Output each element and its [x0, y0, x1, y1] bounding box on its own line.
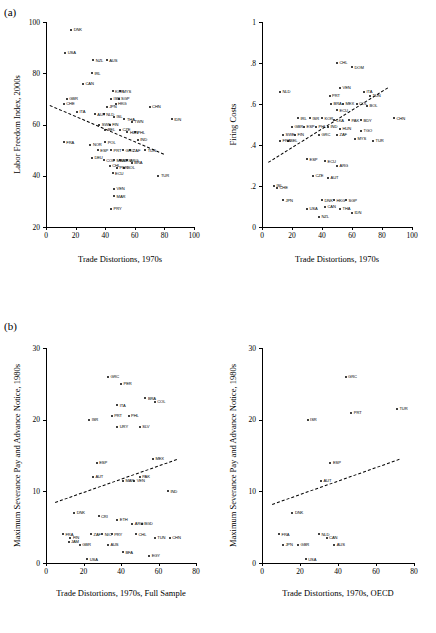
x-tick-label: 0 [37, 567, 55, 576]
x-tick-label: 100 [403, 231, 421, 240]
data-point [115, 103, 117, 105]
data-point [76, 111, 78, 113]
y-tick-label: 0 [236, 559, 256, 568]
data-point-label: ITA [367, 89, 373, 94]
data-point [273, 185, 275, 187]
x-tick-label: 40 [329, 567, 347, 576]
y-axis-label: Maximum Severance Pay and Advance Notice… [12, 348, 22, 563]
data-point [111, 415, 113, 417]
data-point-label: BEL [108, 127, 115, 132]
data-point-label: PHL [319, 124, 327, 129]
data-point-label: ISR [313, 116, 320, 121]
data-point [133, 480, 135, 482]
data-point [70, 29, 72, 31]
data-point-label: VEN [343, 85, 351, 90]
data-point-label: SGP [349, 198, 357, 203]
data-point [73, 512, 75, 514]
data-point [363, 91, 365, 93]
data-point [306, 208, 308, 210]
data-point [282, 134, 284, 136]
data-point-label: MAR [117, 194, 126, 199]
x-tick-label: 0 [37, 231, 55, 240]
data-point [307, 419, 309, 421]
data-point [88, 419, 90, 421]
x-axis-label: Trade Distortions, 1970s, OECD [262, 588, 414, 598]
data-point [320, 480, 322, 482]
x-tick-label: 0 [253, 231, 271, 240]
y-tick [43, 420, 46, 421]
data-point [342, 103, 344, 105]
x-tick [135, 227, 136, 230]
x-tick [121, 563, 122, 566]
y-tick-label: 20 [20, 223, 40, 232]
data-point [141, 523, 143, 525]
x-tick [159, 563, 160, 566]
x-tick [300, 563, 301, 566]
x-tick-label: 0 [253, 567, 271, 576]
data-point [279, 91, 281, 93]
data-point-label: CHN [152, 104, 161, 109]
x-tick [84, 563, 85, 566]
data-point [107, 544, 109, 546]
data-point-label: JPN [286, 198, 293, 203]
data-point [396, 408, 398, 410]
data-point-label: IRL [94, 71, 100, 76]
data-point [345, 376, 347, 378]
data-point-label: CHL [139, 532, 147, 537]
y-tick [259, 348, 262, 349]
data-point [324, 206, 326, 208]
x-tick [262, 563, 263, 566]
data-point [128, 415, 130, 417]
data-point-label: JPN [285, 542, 292, 547]
y-tick [43, 125, 46, 126]
data-point [112, 90, 114, 92]
data-point [131, 121, 133, 123]
data-point [91, 157, 93, 159]
data-point-label: MEX [346, 101, 355, 106]
data-point [360, 130, 362, 132]
y-tick-label: 0 [236, 223, 256, 232]
data-point-label: FRA [66, 140, 74, 145]
data-point [66, 98, 68, 100]
data-point-label: IND [331, 124, 338, 129]
y-tick [259, 104, 262, 105]
data-point [109, 165, 111, 167]
x-tick-label: 40 [112, 567, 130, 576]
data-point-label: JAM [71, 539, 79, 544]
y-tick [259, 63, 262, 64]
data-point [327, 177, 329, 179]
y-tick [43, 491, 46, 492]
data-point-label: ISR [92, 417, 99, 422]
data-point [149, 106, 151, 108]
x-tick-label: 40 [313, 231, 331, 240]
data-point [82, 83, 84, 85]
data-point-label: CHN [172, 535, 181, 540]
data-point-label: CAN [86, 81, 94, 86]
data-point-label: AUT [323, 478, 331, 483]
data-point-label: CZE [316, 173, 324, 178]
data-point [329, 95, 331, 97]
data-point-label: ITA [80, 109, 86, 114]
x-tick [76, 227, 77, 230]
y-tick [259, 563, 262, 564]
data-point-label: AUT [331, 175, 339, 180]
data-point-label: ARG [340, 163, 349, 168]
x-tick-label: 100 [185, 231, 203, 240]
y-tick-label: 1 [236, 18, 256, 27]
data-point-label: HKG [337, 198, 346, 203]
x-tick [164, 227, 165, 230]
data-point [119, 129, 121, 131]
x-tick [376, 563, 377, 566]
y-tick [259, 227, 262, 228]
data-point [120, 383, 122, 385]
y-tick-label: 80 [20, 69, 40, 78]
data-point [98, 124, 100, 126]
data-point-label: PRT [114, 148, 122, 153]
data-point-label: NLD [283, 89, 291, 94]
data-point-label: NZL [322, 214, 329, 219]
y-tick-label: 30 [20, 344, 40, 353]
data-point-label: BEL [290, 138, 297, 143]
data-point-label: AUS [109, 58, 117, 63]
data-point-label: ISL [117, 114, 123, 119]
data-point-label: GRC [110, 374, 119, 379]
